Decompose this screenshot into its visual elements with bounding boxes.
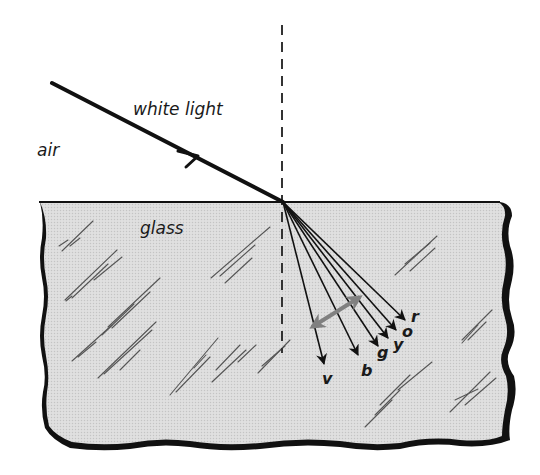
air-label: air — [37, 142, 59, 159]
dispersion-diagram — [0, 0, 540, 475]
ray-label-o: o — [402, 324, 413, 340]
glass-label: glass — [140, 220, 184, 237]
ray-label-b: b — [361, 363, 372, 379]
ray-label-y: y — [393, 337, 403, 353]
glass-surface — [40, 202, 508, 444]
ray-label-v: v — [322, 371, 332, 387]
incident-ray-label: white light — [133, 101, 223, 118]
incident-arrow-icon — [178, 151, 198, 167]
ray-label-g: g — [377, 345, 388, 361]
